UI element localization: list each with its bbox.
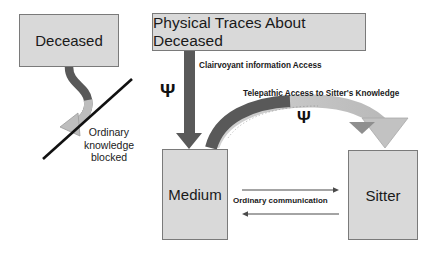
edge-label-blocked-line2: knowledge: [73, 139, 145, 152]
node-medium[interactable]: Medium: [162, 149, 228, 240]
edge-label-telepathic: Telepathic Access to Sitter's Knowledge: [243, 89, 399, 98]
psi-symbol-telepathic: Ψ: [297, 108, 311, 128]
edge-label-clairvoyant: Clairvoyant information Access: [199, 61, 322, 70]
node-deceased-label: Deceased: [35, 32, 103, 49]
node-physical-traces-label: Physical Traces About Deceased: [153, 14, 365, 50]
node-medium-label: Medium: [168, 186, 221, 203]
node-sitter[interactable]: Sitter: [348, 150, 418, 240]
edge-label-blocked-line1: Ordinary: [73, 126, 145, 139]
edge-label-blocked-line3: blocked: [73, 151, 145, 164]
psi-symbol-clairvoyant: Ψ: [160, 80, 175, 102]
edge-label-ordinary-communication: Ordinary communication: [233, 196, 328, 205]
node-sitter-label: Sitter: [365, 187, 400, 204]
diagram-canvas: Deceased Physical Traces About Deceased …: [0, 0, 439, 253]
node-deceased[interactable]: Deceased: [19, 14, 119, 67]
node-physical-traces[interactable]: Physical Traces About Deceased: [152, 13, 366, 51]
edge-label-blocked: Ordinary knowledge blocked: [73, 126, 145, 164]
